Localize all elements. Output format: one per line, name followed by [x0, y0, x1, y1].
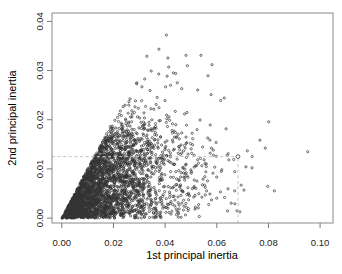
highlighted-point-marker — [236, 155, 240, 159]
y-tick-label: 0.02 — [34, 110, 45, 129]
y-tick-label: 0.04 — [34, 12, 45, 31]
y-tick-label: 0.01 — [34, 160, 45, 179]
x-tick-label: 0.00 — [53, 237, 72, 248]
data-points-layer — [61, 0, 309, 219]
scatter-plot: 0.000.020.040.060.080.100.000.010.020.03… — [0, 0, 342, 274]
y-tick-label: 0.03 — [34, 61, 45, 80]
y-axis-title: 2nd principal inertia — [6, 69, 18, 165]
x-tick-label: 0.06 — [208, 237, 227, 248]
y-tick-label: 0.00 — [34, 209, 45, 228]
scatter-figure: 0.000.020.040.060.080.100.000.010.020.03… — [0, 0, 342, 274]
x-tick-label: 0.10 — [311, 237, 330, 248]
x-tick-label: 0.08 — [259, 237, 278, 248]
x-axis-title: 1st principal inertia — [146, 249, 239, 261]
x-tick-label: 0.02 — [104, 237, 123, 248]
x-tick-label: 0.04 — [156, 237, 175, 248]
scatter-points — [61, 0, 309, 219]
